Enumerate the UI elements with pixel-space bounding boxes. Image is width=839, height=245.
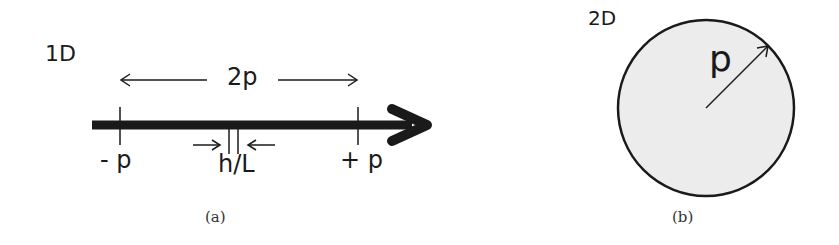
panel-b-dimension-label: 2D [588,6,616,30]
panel-b-caption: (b) [672,208,693,226]
panel-b-graphics [0,0,839,245]
radius-label: p [709,38,732,79]
